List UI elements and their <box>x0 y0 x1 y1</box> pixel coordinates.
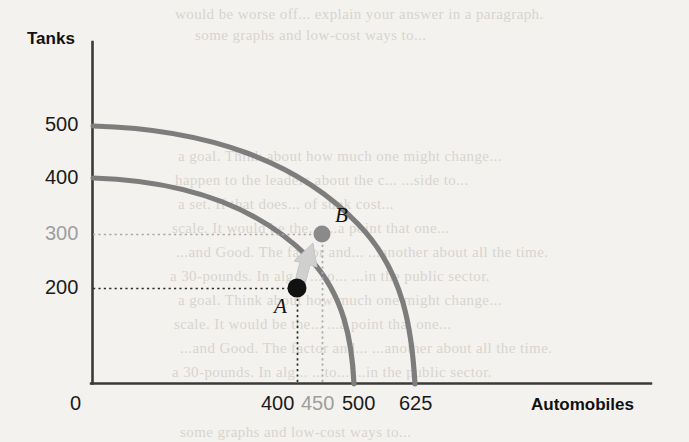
y-tick-label-200: 200 <box>45 277 78 297</box>
x-tick-label-450: 450 <box>301 393 334 413</box>
y-tick-label-300: 300 <box>45 223 78 243</box>
point-b-label: B <box>335 205 348 226</box>
x-tick-label-625: 625 <box>399 393 432 413</box>
ppf-curve-outer <box>93 126 415 384</box>
y-tick-label-400: 400 <box>45 167 78 187</box>
x-tick-label-400: 400 <box>261 393 294 413</box>
x-tick-label-500: 500 <box>342 393 375 413</box>
ppf-curve-inner <box>93 178 354 384</box>
origin-tick-label: 0 <box>70 393 81 413</box>
point-a-marker <box>288 279 307 298</box>
point-b-marker <box>314 226 331 243</box>
y-axis-title: Tanks <box>27 30 75 47</box>
point-a-label: A <box>274 296 287 317</box>
y-tick-label-500: 500 <box>45 114 78 134</box>
ppf-chart-figure: would be worse off... explain your answe… <box>0 0 689 442</box>
x-axis-title: Automobiles <box>531 396 634 413</box>
